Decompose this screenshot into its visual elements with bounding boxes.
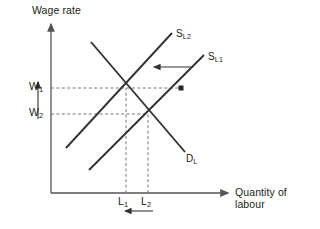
wage-label-w1-sub: 1 bbox=[39, 85, 43, 94]
curve-label-sl1-sub: L1 bbox=[215, 55, 223, 64]
quantity-label-l1: L1 bbox=[118, 195, 128, 208]
point-marker-sl1 bbox=[179, 86, 184, 91]
curve-label-dl: DL bbox=[186, 153, 197, 165]
quantity-label-l1-sub: 1 bbox=[124, 200, 128, 209]
x-axis-label: Quantity of labour bbox=[235, 186, 287, 211]
curve-label-sl1-base: S bbox=[208, 51, 215, 62]
curve-label-sl2: SL2 bbox=[176, 28, 191, 40]
quantity-label-l2-sub: 2 bbox=[147, 200, 151, 209]
wage-label-w1: W1 bbox=[29, 80, 43, 93]
x-axis-label-line2: labour bbox=[235, 198, 265, 210]
curve-label-dl-sub: L bbox=[193, 157, 197, 166]
wage-label-w1-base: W bbox=[29, 80, 39, 92]
wage-label-w2-sub: 2 bbox=[39, 111, 43, 120]
wage-label-w2: W2 bbox=[29, 106, 43, 119]
x-axis-label-line1: Quantity of bbox=[235, 186, 287, 198]
y-axis-label: Wage rate bbox=[32, 4, 81, 16]
curve-label-sl2-base: S bbox=[176, 28, 183, 39]
supply-curve-sl2 bbox=[66, 33, 172, 148]
quantity-label-l2: L2 bbox=[141, 195, 151, 208]
demand-curve-dl bbox=[91, 42, 185, 152]
curve-label-sl2-sub: L2 bbox=[183, 32, 191, 41]
curve-label-sl1: SL1 bbox=[208, 51, 223, 63]
wage-label-w2-base: W bbox=[29, 106, 39, 118]
